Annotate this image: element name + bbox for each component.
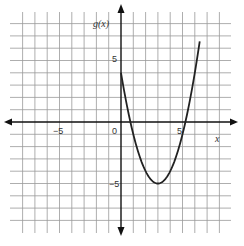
y-axis-up-arrow-icon [118, 4, 125, 13]
x-tick-neg5: −5 [53, 126, 63, 136]
x-tick-5: 5 [177, 126, 182, 136]
y-tick-neg5: −5 [109, 179, 119, 189]
parabola-curve [121, 41, 200, 183]
axes [4, 4, 238, 236]
y-axis-down-arrow-icon [118, 227, 125, 236]
x-axis-right-arrow-icon [230, 119, 238, 126]
x-axis-label: x [214, 133, 220, 144]
y-axis-label: g(x) [93, 18, 110, 30]
origin-label: 0 [112, 126, 117, 136]
x-axis-left-arrow-icon [4, 119, 12, 126]
graph-plot: g(x) x 0 −5 5 5 −5 [0, 0, 244, 246]
y-tick-5: 5 [112, 54, 117, 64]
